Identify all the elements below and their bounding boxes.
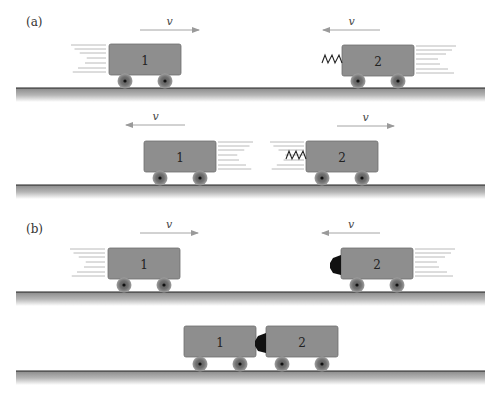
row-b-after: 12 xyxy=(16,326,485,385)
spring-icon xyxy=(322,55,342,63)
velocity-arrow-right: v xyxy=(337,111,394,126)
cart-2: 2 xyxy=(306,141,378,186)
velocity-arrow-left: v xyxy=(323,15,380,30)
ground xyxy=(16,371,485,385)
velocity-label: v xyxy=(166,218,173,231)
ground xyxy=(16,185,485,199)
velocity-arrow-left: v xyxy=(126,110,185,125)
velocity-arrow-right: v xyxy=(140,15,199,30)
bumper-icon xyxy=(330,255,341,275)
velocity-arrow-left: v xyxy=(322,218,380,233)
velocity-label: v xyxy=(348,218,355,231)
cart-number: 1 xyxy=(140,258,148,272)
row-b-before: 12vv xyxy=(16,218,485,306)
cart-1: 1 xyxy=(184,326,256,372)
cart-number: 1 xyxy=(176,151,184,165)
ground xyxy=(16,292,485,306)
cart-number: 1 xyxy=(141,54,149,68)
velocity-label: v xyxy=(362,111,369,124)
cart-2: 2 xyxy=(342,45,414,89)
cart-number: 2 xyxy=(338,151,346,165)
cart-1: 1 xyxy=(108,248,180,293)
cart-1: 1 xyxy=(109,44,181,89)
collision-diagram: 12vv12vv12vv12 xyxy=(0,0,499,393)
cart-number: 1 xyxy=(216,336,224,350)
cart-number: 2 xyxy=(374,55,382,69)
velocity-arrow-right: v xyxy=(140,218,198,233)
velocity-label: v xyxy=(348,15,355,28)
cart-2: 2 xyxy=(341,248,413,293)
cart-2: 2 xyxy=(266,326,338,372)
velocity-label: v xyxy=(166,15,173,28)
row-a-after: 12vv xyxy=(16,110,485,199)
cart-1: 1 xyxy=(144,141,216,186)
row-a-before: 12vv xyxy=(16,15,485,102)
ground xyxy=(16,88,485,102)
cart-number: 2 xyxy=(373,258,381,272)
bumper-icon xyxy=(255,333,266,353)
velocity-label: v xyxy=(152,110,159,123)
cart-number: 2 xyxy=(298,336,306,350)
